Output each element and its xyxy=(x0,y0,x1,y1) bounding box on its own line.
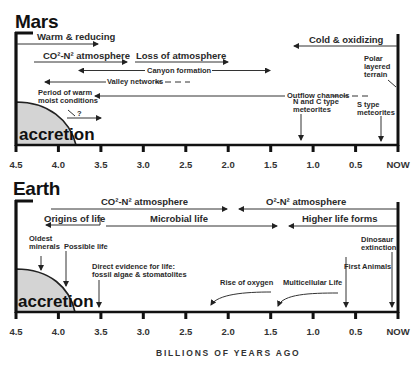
mars-warm-reducing-label: Warm & reducing xyxy=(37,32,115,42)
mars-loss-atmosphere-label: Loss of atmosphere xyxy=(136,51,226,61)
mars-co2-n2-label: CO²-N² atmosphere xyxy=(43,51,130,61)
earth-multicellular-label: Multicellular Life xyxy=(283,279,342,287)
earth-first-animals-label: First Animals xyxy=(344,263,391,271)
mars-question-label: ? xyxy=(77,110,82,118)
earth-title: Earth xyxy=(13,179,60,198)
mars-cold-oxidizing-label: Cold & oxidizing xyxy=(309,35,383,45)
mars-valley-label: Valley networks xyxy=(107,78,163,86)
earth-direct-evidence-label: Direct evidence for life: fossil algae &… xyxy=(92,263,187,279)
mars-accretion-label: accretion xyxy=(19,126,95,143)
mars-nc-meteorites-label: N and C type meteorites xyxy=(293,98,339,114)
x-axis-title: BILLIONS OF YEARS AGO xyxy=(156,349,301,358)
earth-oldest-minerals-label: Oldest minerals xyxy=(29,235,60,251)
earth-dinosaur-extinction-label: Dinosaur extinction xyxy=(361,236,396,252)
mars-polar-terrain-label: Polar layered terrain xyxy=(364,55,390,79)
earth-origins-label: Origins of life xyxy=(44,214,105,224)
mars-title: Mars xyxy=(15,12,58,31)
mars-s-meteorites-label: S type meteorites xyxy=(357,101,395,117)
earth-accretion-label: accretion xyxy=(18,293,94,310)
earth-rise-oxygen-label: Rise of oxygen xyxy=(220,279,273,287)
earth-co2-n2-label: CO²-N² atmosphere xyxy=(101,197,188,207)
earth-higher-label: Higher life forms xyxy=(302,214,378,224)
earth-o2-n2-label: O²-N² atmosphere xyxy=(266,197,346,207)
earth-microbial-label: Microbial life xyxy=(150,214,208,224)
mars-canyon-label: Canyon formation xyxy=(147,67,211,75)
earth-possible-life-label: Possible life xyxy=(64,243,108,251)
mars-warm-moist-label: Period of warm moist conditions xyxy=(38,89,98,105)
